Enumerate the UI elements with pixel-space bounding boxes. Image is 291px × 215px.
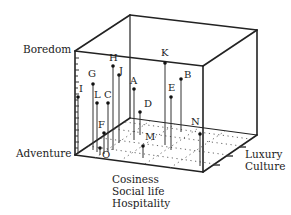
point-label-j: J — [119, 66, 123, 76]
point-label-m: M — [145, 132, 155, 142]
point-k-marker — [163, 61, 167, 65]
point-e-marker — [169, 95, 173, 99]
point-label-o: O — [102, 150, 110, 160]
point-i-marker — [76, 95, 80, 99]
point-label-f: F — [98, 120, 105, 130]
point-l-marker — [95, 101, 99, 105]
point-m-marker — [141, 144, 145, 148]
axis-label-hospitality: Hospitality — [112, 197, 170, 209]
point-c-marker — [106, 101, 110, 105]
point-label-h: H — [109, 53, 118, 63]
point-h-marker — [111, 64, 115, 68]
point-label-c: C — [104, 90, 112, 100]
point-label-b: B — [184, 70, 191, 80]
axis-label-boredom: Boredom — [23, 44, 71, 55]
axis-label-cosiness: Cosiness — [112, 173, 170, 185]
axis-label-social-life: Social life — [112, 185, 170, 197]
point-label-g: G — [88, 69, 96, 79]
axis-label-luxury: Luxury — [245, 148, 285, 160]
point-label-n: N — [191, 117, 200, 127]
axis-label-culture: Culture — [245, 160, 285, 172]
axis-label-right-group: Luxury Culture — [245, 148, 285, 172]
axis-label-adventure: Adventure — [16, 148, 71, 159]
point-d-marker — [138, 110, 142, 114]
point-label-l: L — [94, 90, 101, 100]
point-a-marker — [132, 87, 136, 91]
point-f-marker — [102, 131, 106, 135]
point-label-k: K — [161, 48, 168, 58]
diagram-stage: Boredom Adventure Cosiness Social life H… — [0, 0, 291, 215]
axis-label-front-group: Cosiness Social life Hospitality — [112, 173, 170, 209]
point-label-i: I — [79, 84, 83, 94]
point-label-a: A — [130, 76, 137, 86]
point-b-marker — [179, 77, 183, 81]
point-n-marker — [198, 132, 202, 136]
floor-grid — [88, 121, 250, 168]
point-label-d: D — [144, 99, 152, 109]
point-g-marker — [91, 82, 95, 86]
point-label-e: E — [168, 83, 175, 93]
